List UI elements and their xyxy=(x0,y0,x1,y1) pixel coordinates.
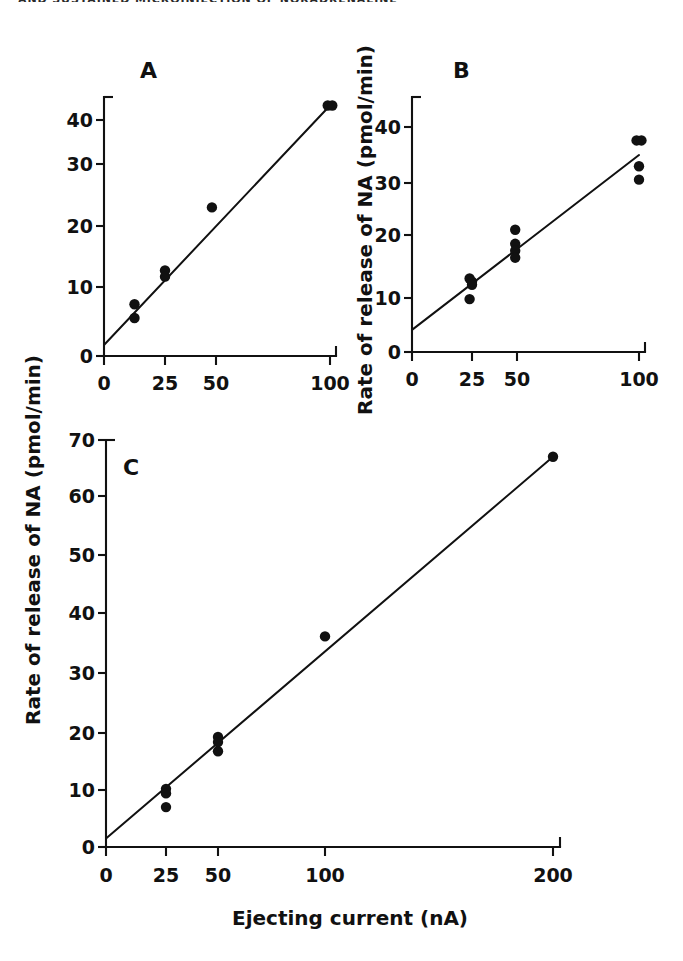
x-tick-label: 100 xyxy=(619,368,659,390)
panel-b-axes xyxy=(404,97,645,361)
panel-c-tick-labels: 01020304050607002550100200 xyxy=(69,429,573,886)
data-point xyxy=(129,313,139,323)
y-tick-label: 10 xyxy=(67,276,93,298)
y-tick-label: 20 xyxy=(375,224,401,246)
panel-b-letter: B xyxy=(453,58,470,83)
panel-a-fit-line xyxy=(104,105,330,344)
panel-c-data-points xyxy=(161,452,558,813)
x-tick-label: 25 xyxy=(153,864,179,886)
x-tick-label: 50 xyxy=(203,372,229,394)
data-point xyxy=(464,294,474,304)
y-tick-label: 30 xyxy=(375,172,401,194)
data-point xyxy=(213,746,223,756)
y-tick-label: 0 xyxy=(388,341,401,363)
y-tick-label: 0 xyxy=(82,836,95,858)
y-tick-label: 10 xyxy=(69,779,95,801)
data-point xyxy=(320,631,330,641)
panel-b: Rate of release of NA (pmol/min) B 01020… xyxy=(353,45,659,415)
panel-a-tick-labels: 01020304002550100 xyxy=(67,109,350,394)
data-point xyxy=(207,202,217,212)
data-point xyxy=(327,100,337,110)
x-tick-label: 25 xyxy=(152,372,178,394)
y-tick-label: 60 xyxy=(69,485,95,507)
data-point xyxy=(634,161,644,171)
data-point xyxy=(213,737,223,747)
panel-b-y-axis-title: Rate of release of NA (pmol/min) xyxy=(353,45,377,415)
panel-c-fit-line xyxy=(106,457,553,839)
y-tick-label: 40 xyxy=(69,602,95,624)
panel-c: C 01020304050607002550100200 xyxy=(69,429,573,886)
y-tick-label: 40 xyxy=(67,109,93,131)
data-point xyxy=(160,271,170,281)
y-tick-label: 30 xyxy=(69,662,95,684)
data-point xyxy=(467,280,477,290)
x-tick-label: 50 xyxy=(205,864,231,886)
panel-a-data-points xyxy=(129,100,337,323)
x-tick-label: 0 xyxy=(405,368,418,390)
y-tick-label: 20 xyxy=(67,215,93,237)
data-point xyxy=(548,452,558,462)
y-tick-label: 20 xyxy=(69,722,95,744)
panel-a: A 01020304002550100 xyxy=(67,58,350,394)
data-point xyxy=(129,299,139,309)
y-tick-label: 10 xyxy=(375,287,401,309)
y-axis-title-group: Rate of release of NA (pmol/min) xyxy=(21,355,45,725)
y-tick-label: 0 xyxy=(80,345,93,367)
figure-canvas: Rate of release of NA (pmol/min) A 01020… xyxy=(0,0,683,961)
x-tick-label: 50 xyxy=(504,368,530,390)
x-tick-label: 100 xyxy=(310,372,350,394)
data-point xyxy=(161,788,171,798)
figure-root: AND SUSTAINED MICROINJECTION OF NORADREN… xyxy=(0,0,683,961)
y-tick-label: 30 xyxy=(67,153,93,175)
x-tick-label: 100 xyxy=(305,864,345,886)
y-tick-label: 50 xyxy=(69,544,95,566)
panel-a-letter: A xyxy=(140,58,157,83)
data-point xyxy=(636,135,646,145)
x-tick-label: 25 xyxy=(459,368,485,390)
x-tick-label: 0 xyxy=(97,372,110,394)
panel-b-fit-line xyxy=(412,155,639,330)
data-point xyxy=(510,252,520,262)
y-tick-label: 40 xyxy=(375,116,401,138)
x-tick-label: 200 xyxy=(533,864,573,886)
data-point xyxy=(634,174,644,184)
y-axis-title: Rate of release of NA (pmol/min) xyxy=(21,355,45,725)
x-tick-label: 0 xyxy=(99,864,112,886)
data-point xyxy=(510,225,520,235)
panel-c-letter: C xyxy=(123,455,139,480)
y-tick-label: 70 xyxy=(69,429,95,451)
x-axis-title: Ejecting current (nA) xyxy=(232,906,468,930)
data-point xyxy=(161,802,171,812)
